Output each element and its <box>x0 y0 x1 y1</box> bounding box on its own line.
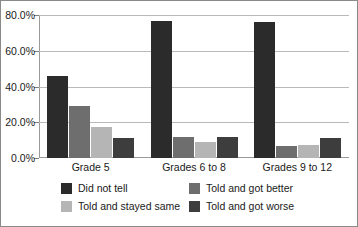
bar <box>151 21 172 158</box>
legend-label: Did not tell <box>78 183 128 194</box>
legend-swatch <box>189 183 200 194</box>
bar <box>217 137 238 158</box>
legend-entry: Told and got worse <box>189 201 311 212</box>
plot-area <box>39 15 349 158</box>
legend-entry: Did not tell <box>61 183 189 194</box>
legend-label: Told and stayed same <box>78 201 180 212</box>
y-tick-label: 0.0% <box>0 153 35 163</box>
bar-group <box>47 15 134 158</box>
bar <box>173 137 194 158</box>
bar <box>320 138 341 158</box>
bar <box>113 138 134 158</box>
legend-entry: Told and stayed same <box>61 201 189 212</box>
legend-label: Told and got worse <box>206 201 294 212</box>
bar-group <box>151 15 238 158</box>
bar <box>276 146 297 159</box>
y-tick-label: 60.0% <box>0 46 35 56</box>
legend-swatch <box>61 183 72 194</box>
y-tick-label: 40.0% <box>0 82 35 92</box>
legend-entry: Told and got better <box>189 183 311 194</box>
x-tick-label: Grade 5 <box>39 161 142 173</box>
legend-swatch <box>61 201 72 212</box>
y-tick-label: 20.0% <box>0 117 35 127</box>
bar-chart: 0.0%20.0%40.0%60.0%80.0% Grade 5Grades 6… <box>0 0 358 227</box>
bar <box>254 22 275 158</box>
bar <box>47 76 68 158</box>
chart-legend: Did not tellTold and got betterTold and … <box>61 179 311 215</box>
bar <box>91 127 112 158</box>
bar-group <box>254 15 341 158</box>
bar <box>69 106 90 158</box>
y-tick-label: 80.0% <box>0 10 35 20</box>
bar <box>195 142 216 158</box>
legend-label: Told and got better <box>206 183 293 194</box>
legend-swatch <box>189 201 200 212</box>
x-tick-label: Grades 6 to 8 <box>142 161 245 173</box>
x-tick-label: Grades 9 to 12 <box>246 161 349 173</box>
bar <box>298 145 319 158</box>
